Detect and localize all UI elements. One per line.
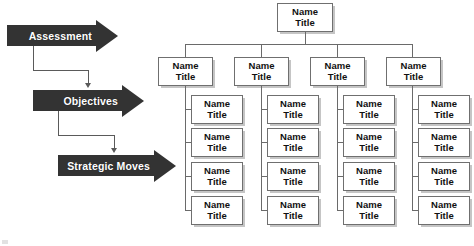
- org-node-leaf[interactable]: Name Title: [343, 196, 395, 225]
- org-node-root[interactable]: Name Title: [277, 3, 333, 32]
- org-node-branch-head-2[interactable]: Name Title: [234, 57, 289, 86]
- org-node-name: Name: [280, 166, 306, 177]
- org-node-leaf[interactable]: Name Title: [267, 162, 319, 191]
- org-node-leaf[interactable]: Name Title: [418, 162, 470, 191]
- org-node-leaf[interactable]: Name Title: [191, 128, 243, 157]
- org-node-leaf[interactable]: Name Title: [343, 128, 395, 157]
- org-node-name: Name: [431, 200, 457, 211]
- tree-branch-drop-3: [337, 44, 338, 57]
- org-node-leaf[interactable]: Name Title: [267, 95, 319, 124]
- tree-leaf-spine-2: [261, 86, 262, 210]
- org-node-name: Name: [401, 61, 427, 72]
- tree-leaf-spine-3: [337, 86, 338, 210]
- org-node-title: Title: [359, 110, 378, 121]
- flow-step-strategic-moves[interactable]: Strategic Moves: [58, 155, 176, 176]
- org-node-title: Title: [359, 211, 378, 222]
- org-node-title: Title: [283, 211, 302, 222]
- org-node-title: Title: [207, 211, 226, 222]
- org-node-leaf[interactable]: Name Title: [191, 162, 243, 191]
- org-node-name: Name: [356, 132, 382, 143]
- org-node-title: Title: [252, 72, 271, 83]
- org-node-title: Title: [434, 177, 453, 188]
- org-node-branch-head-4[interactable]: Name Title: [386, 57, 441, 86]
- org-node-leaf[interactable]: Name Title: [418, 128, 470, 157]
- org-node-name: Name: [249, 61, 275, 72]
- tree-leaf-spine-4: [412, 86, 413, 210]
- tree-distribution-bus: [185, 44, 413, 45]
- org-node-name: Name: [356, 200, 382, 211]
- org-node-name: Name: [292, 7, 318, 18]
- scan-artifact: [2, 240, 8, 244]
- tree-root-stem: [305, 32, 306, 44]
- org-node-title: Title: [283, 110, 302, 121]
- flow-connector-2-right: [58, 135, 114, 136]
- org-node-title: Title: [359, 177, 378, 188]
- org-node-title: Title: [328, 72, 347, 83]
- flow-step-assessment[interactable]: Assessment: [7, 25, 118, 46]
- org-node-title: Title: [207, 177, 226, 188]
- org-node-name: Name: [280, 99, 306, 110]
- org-node-name: Name: [431, 132, 457, 143]
- org-node-name: Name: [356, 99, 382, 110]
- flow-step-label: Strategic Moves: [67, 160, 150, 172]
- org-node-leaf[interactable]: Name Title: [191, 196, 243, 225]
- flow-connector-1-arrowhead-icon: [85, 83, 91, 88]
- org-node-name: Name: [280, 200, 306, 211]
- org-node-name: Name: [204, 132, 230, 143]
- org-node-name: Name: [204, 200, 230, 211]
- flow-connector-1-down: [33, 46, 34, 71]
- tree-leaf-spine-1: [185, 86, 186, 210]
- flow-connector-1-drop: [88, 70, 89, 84]
- org-node-leaf[interactable]: Name Title: [267, 196, 319, 225]
- diagram-canvas: Assessment Objectives Strategic Moves Na…: [0, 0, 474, 246]
- org-node-name: Name: [431, 166, 457, 177]
- tree-branch-drop-4: [412, 44, 413, 57]
- org-node-title: Title: [434, 110, 453, 121]
- org-node-title: Title: [404, 72, 423, 83]
- org-node-leaf[interactable]: Name Title: [418, 196, 470, 225]
- org-node-leaf[interactable]: Name Title: [267, 128, 319, 157]
- org-node-title: Title: [359, 143, 378, 154]
- org-node-name: Name: [204, 166, 230, 177]
- org-node-name: Name: [280, 132, 306, 143]
- org-node-leaf[interactable]: Name Title: [343, 95, 395, 124]
- tree-branch-drop-2: [261, 44, 262, 57]
- org-node-branch-head-1[interactable]: Name Title: [158, 57, 213, 86]
- tree-branch-drop-1: [185, 44, 186, 57]
- org-node-title: Title: [176, 72, 195, 83]
- org-node-title: Title: [207, 143, 226, 154]
- org-node-name: Name: [173, 61, 199, 72]
- flow-connector-2-drop: [114, 135, 115, 149]
- org-node-branch-head-3[interactable]: Name Title: [310, 57, 365, 86]
- org-node-name: Name: [431, 99, 457, 110]
- org-node-title: Title: [434, 143, 453, 154]
- org-node-name: Name: [356, 166, 382, 177]
- arrow-head-icon: [122, 85, 144, 117]
- flow-step-objectives[interactable]: Objectives: [33, 90, 144, 111]
- org-node-name: Name: [325, 61, 351, 72]
- org-node-title: Title: [295, 18, 314, 29]
- flow-step-label: Assessment: [29, 30, 92, 42]
- arrow-head-icon: [154, 150, 176, 182]
- org-node-leaf[interactable]: Name Title: [418, 95, 470, 124]
- org-node-title: Title: [207, 110, 226, 121]
- org-node-name: Name: [204, 99, 230, 110]
- org-node-title: Title: [283, 177, 302, 188]
- flow-connector-1-right: [33, 70, 88, 71]
- flow-connector-2-arrowhead-icon: [111, 148, 117, 153]
- org-node-leaf[interactable]: Name Title: [191, 95, 243, 124]
- org-node-title: Title: [283, 143, 302, 154]
- flow-step-label: Objectives: [63, 95, 118, 107]
- flow-connector-2-down: [58, 111, 59, 136]
- arrow-head-icon: [96, 20, 118, 52]
- org-node-title: Title: [434, 211, 453, 222]
- org-node-leaf[interactable]: Name Title: [343, 162, 395, 191]
